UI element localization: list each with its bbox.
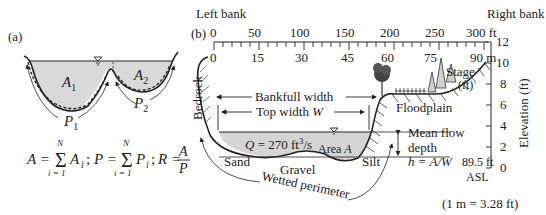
svg-text:30: 30: [295, 50, 308, 65]
datum-elevation-label: 89.5 ft: [462, 155, 494, 169]
top-width-label: Top width W: [256, 104, 324, 119]
conversion-note: (1 m = 3.28 ft): [442, 196, 518, 211]
svg-text:0: 0: [210, 50, 217, 65]
svg-text:R =: R =: [157, 151, 181, 167]
svg-text:10: 10: [496, 55, 509, 70]
sand-label: Sand: [224, 154, 251, 169]
svg-text:12: 12: [496, 34, 509, 49]
svg-text:;: ;: [151, 151, 155, 167]
svg-text:2: 2: [500, 139, 507, 154]
svg-text:N: N: [56, 138, 64, 148]
meter-scale: 0 15 30 45 60 75 90 m: [210, 50, 496, 65]
panel-a-label: (a): [8, 29, 22, 44]
svg-text:100: 100: [290, 25, 310, 40]
depth-label: depth: [408, 140, 437, 155]
river-cross-section-diagram: (a) A1 A2 P1 P2 A = Σ N: [0, 0, 546, 215]
svg-text:45: 45: [341, 50, 354, 65]
hydraulic-radius-formula: A = Σ N i = 1 A i ; P = Σ N i = 1 P i ; …: [26, 138, 190, 178]
stage-label: Stage: [446, 64, 475, 79]
tree-icon: [373, 63, 391, 96]
perimeter-p2-label: P2: [133, 95, 148, 114]
left-bank-label: Left bank: [196, 6, 247, 21]
svg-text:P =: P =: [93, 151, 117, 167]
svg-text:Elevation (ft): Elevation (ft): [516, 78, 531, 148]
area-label: Area A: [318, 142, 352, 156]
bedrock-label: Bedrock: [190, 75, 205, 120]
bankfull-width-label: Bankfull width: [255, 89, 334, 104]
svg-text:300 ft: 300 ft: [466, 25, 497, 40]
svg-text:250: 250: [425, 25, 445, 40]
right-bank-label: Right bank: [487, 6, 545, 21]
floodplain-grass-icon: [395, 88, 426, 94]
depth-formula-label: h = A/W: [408, 154, 453, 169]
mean-flow-label: Mean flow: [408, 125, 465, 140]
svg-text:75: 75: [424, 50, 437, 65]
svg-text:4: 4: [500, 118, 507, 133]
panel-b: Left bank Right bank (b) 0 50 100 150 20…: [190, 6, 545, 211]
svg-text:i = 1: i = 1: [48, 168, 66, 178]
svg-text:90 m: 90 m: [470, 50, 496, 65]
perimeter-p1-label: P1: [63, 113, 78, 132]
svg-text:i: i: [81, 159, 84, 170]
svg-text:A =: A =: [26, 151, 50, 167]
silt-label: Silt: [362, 154, 380, 169]
svg-text:P: P: [135, 151, 145, 167]
floodplain-label: Floodplain: [396, 100, 453, 115]
svg-text:15: 15: [251, 50, 264, 65]
panel-b-label: (b): [191, 26, 206, 41]
stage-unit-label: (ft): [458, 78, 473, 92]
svg-text:A: A: [178, 144, 188, 159]
asl-label: ASL: [466, 170, 489, 184]
svg-text:i = 1: i = 1: [114, 168, 132, 178]
svg-text:50: 50: [248, 25, 261, 40]
svg-text:A: A: [69, 151, 80, 167]
svg-text:60: 60: [381, 50, 394, 65]
svg-text:0: 0: [210, 25, 217, 40]
svg-text:P: P: [178, 161, 188, 176]
panel-a: (a) A1 A2 P1 P2 A = Σ N: [8, 29, 190, 178]
svg-text:8: 8: [500, 76, 507, 91]
svg-text:0: 0: [500, 160, 507, 175]
svg-text:N: N: [122, 138, 130, 148]
svg-text:;: ;: [86, 151, 90, 167]
svg-text:200: 200: [380, 25, 400, 40]
feet-scale: 0 50 100 150 200 250 300 ft: [210, 25, 497, 50]
svg-text:i: i: [146, 159, 149, 170]
svg-text:150: 150: [335, 25, 355, 40]
svg-text:6: 6: [500, 97, 507, 112]
